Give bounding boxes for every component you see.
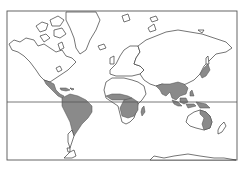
greenland	[66, 12, 100, 54]
south-america-shaded	[62, 94, 92, 136]
madagascar-shaded	[141, 106, 145, 116]
asia	[134, 16, 232, 100]
south-america	[62, 94, 92, 152]
world-map	[0, 0, 246, 169]
iceland	[98, 44, 106, 50]
antarctica	[64, 150, 236, 160]
new-zealand	[218, 122, 226, 134]
north-america	[9, 16, 76, 82]
africa	[104, 78, 146, 124]
caribbean-shaded	[60, 88, 70, 91]
caribbean-islands	[70, 88, 74, 90]
australia	[186, 110, 212, 130]
south-asia-shaded	[156, 82, 188, 100]
